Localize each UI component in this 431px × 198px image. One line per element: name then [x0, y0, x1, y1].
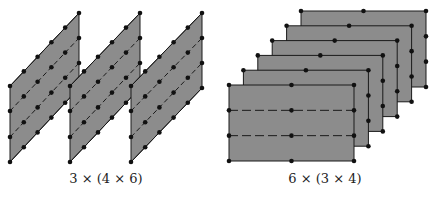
right-caption: 6 × (3 × 4): [265, 171, 385, 186]
diagram-canvas: [0, 0, 431, 198]
rect-panel: [227, 83, 357, 164]
left-caption: 3 × (4 × 6): [46, 171, 166, 186]
